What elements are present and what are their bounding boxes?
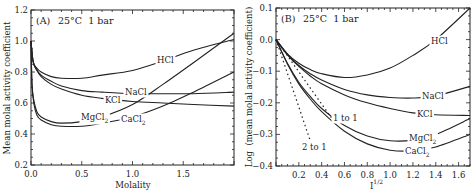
x-tick-label: 0.0 (24, 169, 38, 179)
curve-kcl (276, 40, 470, 116)
panel-a-label-mgcl2: MgCl2 (80, 112, 110, 125)
panel-b-label-2to1: 2 to 1 (302, 142, 327, 152)
y-tick-label: 0.2 (14, 160, 28, 170)
y-tick-label: 1.0 (14, 36, 28, 46)
curve-1-to-1 (276, 40, 333, 121)
panel-a-label-nacl: NaCl (125, 87, 147, 97)
panel-a: 0.00.51.01.50.20.40.60.81.01.2 (A) 25°C … (2, 5, 234, 190)
x-tick-label: 1.0 (383, 170, 397, 180)
y-tick-label: 0.6 (14, 98, 28, 108)
panel-b-label-hcl: HCl (431, 36, 448, 46)
panel-a-curves (31, 33, 234, 126)
panel-b: 0.20.40.60.81.01.21.41.60.10.0−0.1−0.2−0… (244, 3, 470, 191)
panel-b-y-axis-label: Log (mean molal activity coefficient) (244, 7, 254, 167)
y-tick-label: 0.8 (14, 67, 28, 77)
y-tick-label: −0.2 (252, 98, 273, 108)
x-tick-label: 0.6 (338, 170, 352, 180)
x-tick-label: 1.6 (452, 170, 466, 180)
panel-a-y-axis-label: Mean molal activity coefficient (2, 21, 12, 154)
y-tick-label: 1.2 (14, 5, 28, 15)
curve-nacl (276, 40, 470, 99)
panel-b-label-cacl2: CaCl2 (404, 146, 432, 159)
x-tick-label: 0.5 (75, 169, 89, 179)
y-tick-label: 0.0 (259, 35, 273, 45)
x-tick-label: 1.2 (406, 170, 420, 180)
panel-a-conditions: 25°C 1 bar (58, 15, 114, 26)
panel-b-label-nacl: NaCl (422, 91, 444, 101)
panel-b-tag: (B) (281, 13, 295, 24)
panel-b-label-kcl: KCl (417, 109, 433, 119)
x-tick-label: 0.4 (315, 170, 329, 180)
y-tick-label: −0.4 (252, 161, 273, 171)
panel-b-label-1to1: 1 to 1 (333, 113, 358, 123)
y-tick-label: 0.1 (259, 3, 273, 13)
panel-a-label-cacl2: CaCl2 (120, 114, 148, 127)
panel-a-label-hcl: HCl (157, 55, 174, 65)
panel-b-conditions: 25°C 1 bar (303, 13, 359, 24)
figure: 0.00.51.01.50.20.40.60.81.01.2 (A) 25°C … (0, 0, 476, 195)
panel-b-curves (276, 8, 470, 151)
x-tick-label: 1.4 (429, 170, 443, 180)
y-tick-label: 0.4 (14, 129, 28, 139)
panel-a-label-kcl: KCl (105, 95, 121, 105)
y-tick-label: −0.1 (252, 66, 273, 76)
x-tick-label: 1.5 (176, 169, 190, 179)
x-tick-label: 1.0 (126, 169, 140, 179)
panel-b-label-mgcl2: MgCl2 (408, 133, 438, 146)
panel-a-x-axis-label: Molality (115, 180, 150, 190)
curve-nacl (31, 41, 234, 94)
x-tick-label: 0.8 (361, 170, 375, 180)
curve-hcl (31, 39, 234, 78)
x-tick-label: 0.2 (292, 170, 306, 180)
y-tick-label: −0.3 (252, 129, 273, 139)
panel-a-tag: (A) (36, 15, 50, 26)
